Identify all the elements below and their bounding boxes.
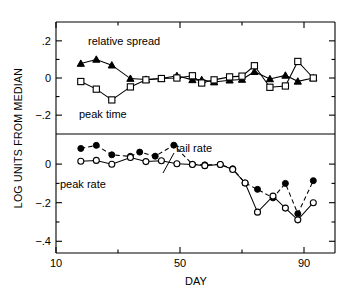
data-point-marker xyxy=(227,74,233,80)
data-point-marker xyxy=(78,158,84,164)
data-point-marker xyxy=(143,77,149,83)
data-point-marker xyxy=(202,163,208,169)
x-axis-title: DAY xyxy=(185,275,207,287)
data-point-marker xyxy=(127,75,134,81)
data-point-marker xyxy=(143,159,149,165)
series-polyline xyxy=(81,158,313,220)
x-ticklabel: 90 xyxy=(298,257,310,269)
x-ticklabel: 10 xyxy=(50,257,62,269)
data-point-marker xyxy=(127,155,133,161)
series-label-tail-rate: tail rate xyxy=(176,142,212,154)
data-point-marker xyxy=(189,161,195,167)
y-ticklabel-lower: −.4 xyxy=(35,235,51,247)
x-ticklabel: 50 xyxy=(174,257,186,269)
data-point-marker xyxy=(217,161,223,167)
data-point-marker xyxy=(310,200,316,206)
data-series-layer xyxy=(77,56,317,223)
series-annotations: relative spread peak time tail rate peak… xyxy=(60,35,212,190)
data-point-marker xyxy=(211,77,217,83)
tick-labels: .20−.20−.2−.4105090 xyxy=(35,35,310,269)
series-label-peak-time: peak time xyxy=(79,108,127,120)
y-ticklabel-lower: 0 xyxy=(45,158,51,170)
data-point-marker xyxy=(310,75,316,81)
data-point-marker xyxy=(109,97,115,103)
data-point-marker xyxy=(295,217,301,223)
figure-container: .20−.20−.2−.4105090 LOG UNITS FROM MEDIA… xyxy=(0,0,356,291)
data-point-marker xyxy=(255,186,261,192)
data-point-marker xyxy=(282,83,288,89)
data-point-marker xyxy=(174,161,180,167)
data-point-marker xyxy=(93,142,99,148)
series-label-relative-spread: relative spread xyxy=(88,35,160,47)
data-point-marker xyxy=(282,180,288,186)
data-point-marker xyxy=(267,84,273,90)
data-point-marker xyxy=(93,56,100,62)
data-point-marker xyxy=(93,86,99,92)
data-point-marker xyxy=(78,145,84,151)
two-panel-line-chart: .20−.20−.2−.4105090 LOG UNITS FROM MEDIA… xyxy=(0,0,356,291)
data-point-marker xyxy=(295,58,301,64)
data-point-marker xyxy=(251,63,257,69)
data-point-marker xyxy=(310,178,316,184)
data-point-marker xyxy=(152,153,158,159)
data-point-marker xyxy=(93,157,99,163)
data-point-marker xyxy=(282,72,289,78)
data-point-marker xyxy=(158,75,164,81)
data-point-marker xyxy=(109,161,115,167)
data-point-marker xyxy=(255,209,261,215)
series-polyline xyxy=(81,59,313,82)
data-point-marker xyxy=(174,75,180,81)
y-axis-title: LOG UNITS FROM MEDIAN xyxy=(12,68,24,208)
data-point-marker xyxy=(199,80,205,86)
data-point-marker xyxy=(270,193,276,199)
data-point-marker xyxy=(239,73,245,79)
axis-frame xyxy=(56,22,335,253)
y-ticklabel-upper: −.2 xyxy=(35,109,51,121)
y-ticklabel-lower: −.2 xyxy=(35,197,51,209)
series-relative-spread xyxy=(77,56,317,85)
x-axis-ticks xyxy=(56,22,304,253)
data-point-marker xyxy=(78,78,84,84)
series-polyline xyxy=(81,145,313,214)
series-polyline xyxy=(81,61,313,99)
data-point-marker xyxy=(282,205,288,211)
data-point-marker xyxy=(242,180,248,186)
data-point-marker xyxy=(137,149,143,155)
series-peak-rate xyxy=(78,155,316,223)
y-ticklabel-upper: 0 xyxy=(45,72,51,84)
data-point-marker xyxy=(295,211,301,217)
y-ticklabel-upper: .2 xyxy=(42,35,51,47)
data-point-marker xyxy=(230,166,236,172)
data-point-marker xyxy=(127,84,133,90)
data-point-marker xyxy=(109,152,115,158)
data-point-marker xyxy=(158,158,164,164)
data-point-marker xyxy=(189,73,195,79)
series-label-peak-rate: peak rate xyxy=(60,178,106,190)
